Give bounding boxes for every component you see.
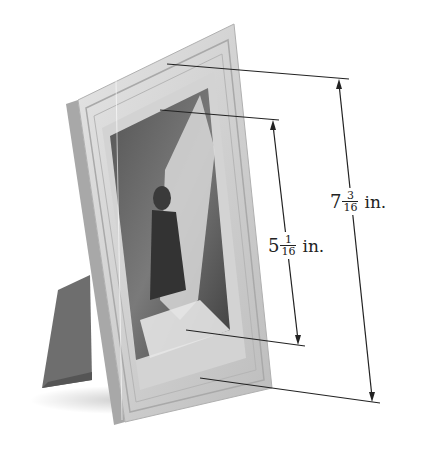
outer-denominator: 16 (342, 201, 358, 213)
outer-arrow-top-icon (336, 79, 342, 89)
inner-denominator: 16 (280, 245, 296, 257)
inner-fraction: 1 16 (280, 234, 296, 257)
inner-numerator: 1 (284, 234, 293, 245)
picture-frame-illustration (0, 0, 423, 455)
inner-arrow-bottom-icon (295, 335, 301, 345)
photo-person-head (153, 186, 171, 210)
outer-fraction: 3 16 (342, 190, 358, 213)
inner-arrow-top-icon (270, 120, 276, 130)
inner-whole: 5 (268, 235, 279, 256)
outer-dimension-line (339, 84, 372, 397)
outer-dimension-label: 7 3 16 in. (328, 188, 388, 215)
outer-unit: in. (364, 192, 386, 212)
outer-arrow-bottom-icon (369, 392, 375, 402)
outer-numerator: 3 (346, 190, 355, 201)
inner-unit: in. (302, 236, 324, 256)
frame-stand (42, 275, 92, 388)
inner-dimension-label: 5 1 16 in. (266, 232, 326, 259)
outer-whole: 7 (330, 191, 341, 212)
